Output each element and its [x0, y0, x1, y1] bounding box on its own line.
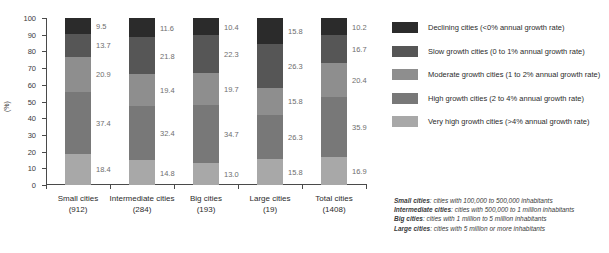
- bar-segment[interactable]: 26.3: [257, 44, 283, 88]
- bar-segment[interactable]: 16.9: [321, 157, 347, 185]
- x-category-label: Total cities(1408): [279, 193, 389, 215]
- legend-label: Slow growth cities (0 to 1% annual growt…: [428, 47, 585, 56]
- axes: 0102030405060708090100 9.513.720.937.418…: [46, 18, 366, 185]
- bar-segment[interactable]: 26.3: [257, 115, 283, 159]
- bar-segment[interactable]: 19.4: [129, 74, 155, 106]
- y-tick: 90: [42, 35, 47, 36]
- bar-segment[interactable]: 22.3: [193, 35, 219, 72]
- footnote-term: Small cities: [394, 197, 430, 204]
- bar-segment[interactable]: 13.7: [65, 34, 91, 57]
- bar-value-label: 20.4: [352, 75, 367, 84]
- x-category-count: (1408): [279, 204, 389, 215]
- footnote-line-2: Big cities: cities with 1 million to 5 m…: [394, 214, 604, 223]
- legend-swatch: [392, 93, 418, 104]
- bar-segment[interactable]: 19.7: [193, 73, 219, 106]
- bar-segment[interactable]: 32.4: [129, 106, 155, 160]
- bar-value-label: 19.7: [224, 84, 239, 93]
- bar-segment[interactable]: 11.6: [129, 18, 155, 37]
- bar-segment[interactable]: 18.4: [65, 154, 91, 185]
- bar-segment[interactable]: 37.4: [65, 92, 91, 154]
- y-axis-label: (%): [3, 101, 10, 112]
- bar-value-label: 20.9: [96, 70, 111, 79]
- bar-segment[interactable]: 20.9: [65, 57, 91, 92]
- bar-segment[interactable]: 14.8: [129, 160, 155, 185]
- bar-segment[interactable]: 10.4: [193, 18, 219, 35]
- footnote-line-3: Large cities: cities with 5 million or m…: [394, 224, 604, 233]
- legend-item-1[interactable]: Slow growth cities (0 to 1% annual growt…: [392, 46, 604, 57]
- y-tick-label: 100: [23, 14, 36, 23]
- legend-item-4[interactable]: Very high growth cities (>4% annual grow…: [392, 116, 604, 127]
- bar-value-label: 26.3: [288, 132, 303, 141]
- x-tick: [302, 184, 303, 189]
- bar-value-label: 13.7: [96, 41, 111, 50]
- bar-segment[interactable]: 34.7: [193, 105, 219, 163]
- bar-value-label: 22.3: [224, 49, 239, 58]
- footnote-text: : cities with 5 million or more inhabita…: [430, 225, 545, 232]
- y-tick-label: 80: [28, 47, 36, 56]
- bar-value-label: 37.4: [96, 118, 111, 127]
- bar-small-cities[interactable]: 9.513.720.937.418.4: [65, 18, 91, 185]
- bar-segment[interactable]: 10.2: [321, 18, 347, 35]
- bar-segment[interactable]: 15.8: [257, 18, 283, 44]
- y-tick-label: 0: [32, 181, 36, 190]
- bar-segment[interactable]: 20.4: [321, 63, 347, 97]
- y-tick: 50: [42, 102, 47, 103]
- bar-value-label: 10.4: [224, 22, 239, 31]
- bar-value-label: 26.3: [288, 62, 303, 71]
- y-tick-label: 10: [28, 164, 36, 173]
- bar-value-label: 13.0: [224, 170, 239, 179]
- bar-value-label: 19.4: [160, 85, 175, 94]
- bar-big-cities[interactable]: 10.422.319.734.713.0: [193, 18, 219, 185]
- legend-label: High growth cities (2 to 4% annual growt…: [428, 94, 584, 103]
- legend-swatch: [392, 22, 418, 33]
- legend-swatch: [392, 116, 418, 127]
- bar-value-label: 11.6: [160, 23, 174, 32]
- y-tick: 70: [42, 68, 47, 69]
- x-tick: [110, 184, 111, 189]
- bar-value-label: 10.2: [352, 22, 367, 31]
- bar-large-cities[interactable]: 15.826.315.826.315.8: [257, 18, 283, 185]
- y-tick: 10: [42, 168, 47, 169]
- bar-value-label: 35.9: [352, 122, 367, 131]
- legend-item-3[interactable]: High growth cities (2 to 4% annual growt…: [392, 93, 604, 104]
- legend-item-2[interactable]: Moderate growth cities (1 to 2% annual g…: [392, 69, 604, 80]
- y-tick-label: 40: [28, 114, 36, 123]
- footnote-text: : cities with 500,000 to 1 million inhab…: [451, 206, 574, 213]
- legend-item-0[interactable]: Declining cities (<0% annual growth rate…: [392, 22, 604, 33]
- bar-value-label: 16.9: [352, 166, 367, 175]
- y-tick: 40: [42, 118, 47, 119]
- x-category-name: Total cities: [315, 194, 352, 203]
- bar-value-label: 16.7: [352, 44, 367, 53]
- x-tick: [174, 184, 175, 189]
- legend-swatch: [392, 46, 418, 57]
- y-tick-label: 60: [28, 80, 36, 89]
- y-tick: 30: [42, 135, 47, 136]
- legend-label: Declining cities (<0% annual growth rate…: [428, 23, 565, 32]
- bar-segment[interactable]: 16.7: [321, 35, 347, 63]
- bar-intermediate-cities[interactable]: 11.621.819.432.414.8: [129, 18, 155, 185]
- y-tick: 80: [42, 51, 47, 52]
- footnote: Small cities: cities with 100,000 to 500…: [394, 196, 604, 233]
- bar-value-label: 21.8: [160, 51, 175, 60]
- x-tick: [46, 184, 47, 189]
- footnote-term: Intermediate cities: [394, 206, 451, 213]
- bar-value-label: 14.8: [160, 168, 175, 177]
- plot-area: (%) 0102030405060708090100 9.513.720.937…: [0, 0, 380, 253]
- y-tick-label: 50: [28, 97, 36, 106]
- bar-value-label: 15.8: [288, 167, 303, 176]
- bar-segment[interactable]: 9.5: [65, 18, 91, 34]
- bar-value-label: 15.8: [288, 27, 303, 36]
- bar-segment[interactable]: 15.8: [257, 88, 283, 114]
- bar-segment[interactable]: 21.8: [129, 37, 155, 73]
- footnote-term: Big cities: [394, 215, 423, 222]
- footnote-text: : cities with 100,000 to 500,000 inhabit…: [430, 197, 553, 204]
- bar-segment[interactable]: 15.8: [257, 159, 283, 185]
- bar-segment[interactable]: 35.9: [321, 97, 347, 157]
- footnote-term: Large cities: [394, 225, 430, 232]
- y-tick-label: 30: [28, 130, 36, 139]
- legend-label: Moderate growth cities (1 to 2% annual g…: [428, 70, 600, 79]
- y-tick-label: 70: [28, 64, 36, 73]
- bar-total-cities[interactable]: 10.216.720.435.916.9: [321, 18, 347, 185]
- bar-segment[interactable]: 13.0: [193, 163, 219, 185]
- y-tick: 100: [42, 18, 47, 19]
